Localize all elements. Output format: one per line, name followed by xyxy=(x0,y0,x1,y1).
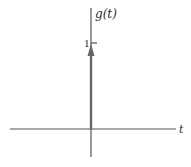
amplitude-label: 1 xyxy=(84,37,90,49)
x-axis-label: t xyxy=(179,123,184,136)
impulse-plot: 1 g(t) t xyxy=(0,0,191,167)
y-axis-label: g(t) xyxy=(95,7,117,21)
